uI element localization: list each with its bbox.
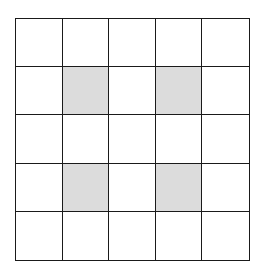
grid-cell-shaded bbox=[156, 67, 203, 115]
grid-cell bbox=[109, 67, 156, 115]
grid-cell bbox=[16, 19, 63, 67]
grid-cell bbox=[156, 115, 203, 163]
grid-cell bbox=[16, 212, 63, 260]
grid-cell bbox=[16, 164, 63, 212]
grid-cell bbox=[16, 115, 63, 163]
grid-cell bbox=[156, 19, 203, 67]
grid-cell bbox=[109, 164, 156, 212]
grid-cell bbox=[156, 212, 203, 260]
grid-cell bbox=[63, 115, 110, 163]
grid-cell bbox=[109, 19, 156, 67]
grid-diagram bbox=[15, 18, 250, 261]
grid-cell bbox=[63, 19, 110, 67]
grid-cell bbox=[202, 164, 249, 212]
grid-cell bbox=[16, 67, 63, 115]
grid-cell bbox=[109, 212, 156, 260]
grid-cell bbox=[202, 115, 249, 163]
grid-cell bbox=[63, 212, 110, 260]
grid-cell bbox=[109, 115, 156, 163]
grid-cell bbox=[202, 67, 249, 115]
grid-cell-shaded bbox=[63, 67, 110, 115]
grid-cell-shaded bbox=[156, 164, 203, 212]
grid-cell bbox=[202, 19, 249, 67]
grid-cell-shaded bbox=[63, 164, 110, 212]
grid-cell bbox=[202, 212, 249, 260]
